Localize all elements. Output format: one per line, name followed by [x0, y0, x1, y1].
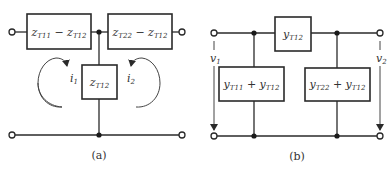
junction-dot-a-bottom — [96, 132, 101, 137]
junction-dot-b-top-left — [251, 30, 256, 35]
terminal-a-bottom-right — [179, 132, 185, 138]
label-v1: v1 — [210, 52, 221, 66]
label-v2: v2 — [376, 52, 387, 66]
impedance-box-a-left: zT11 − zT12 — [27, 14, 91, 49]
caption-b: (b) — [289, 150, 305, 163]
impedance-box-a-right: zT22 − zT12 — [108, 14, 172, 49]
admittance-box-b-right: yT22 + yT12 — [305, 68, 370, 101]
terminal-b-bottom-right — [377, 133, 383, 139]
loop-current-arrow-i2-icon — [131, 58, 160, 107]
junction-dot-b-top-right — [334, 30, 339, 35]
terminal-a-top-right — [179, 29, 185, 35]
loop-current-arrow-i1-icon — [38, 58, 67, 107]
terminal-b-top-right — [377, 30, 383, 36]
junction-dot-b-bottom-right — [334, 133, 339, 138]
caption-a: (a) — [91, 149, 106, 162]
label-i2: i2 — [127, 72, 136, 86]
terminal-b-top-left — [211, 30, 217, 36]
junction-dot-b-bottom-left — [251, 133, 256, 138]
circuit-a-t-network: zT11 − zT12 zT22 − zT12 zT12 i1 i2 — [9, 14, 185, 162]
two-port-equivalent-circuits: zT11 − zT12 zT22 − zT12 zT12 i1 i2 — [0, 0, 392, 171]
admittance-box-b-series: yT12 — [275, 17, 311, 51]
terminal-a-top-left — [9, 29, 15, 35]
label-i1: i1 — [70, 72, 78, 86]
junction-dot-a-top — [96, 29, 101, 34]
circuit-b-pi-network: yT12 yT11 + yT12 yT22 + yT12 v1 — [210, 17, 387, 163]
terminal-a-bottom-left — [9, 132, 15, 138]
terminal-b-bottom-left — [211, 133, 217, 139]
impedance-box-a-shunt: zT12 — [82, 65, 117, 99]
admittance-box-b-left: yT11 + yT12 — [219, 67, 284, 101]
